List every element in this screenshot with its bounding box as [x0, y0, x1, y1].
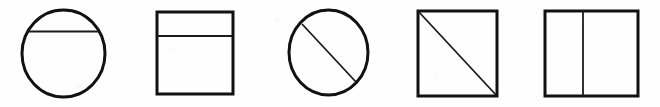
shapes-figure-canvas — [0, 0, 660, 107]
square-outline — [545, 11, 638, 96]
shape-square-with-vertical-line — [0, 0, 660, 107]
